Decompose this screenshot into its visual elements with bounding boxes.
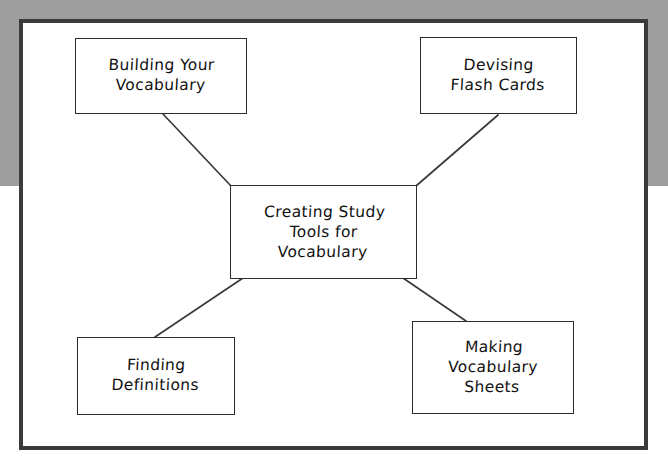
node-devising-flash-cards-label: DevisingFlash Cards bbox=[450, 56, 546, 95]
node-building-vocabulary-label: Building YourVocabulary bbox=[107, 56, 215, 95]
node-building-vocabulary[interactable]: Building YourVocabulary bbox=[75, 38, 247, 114]
node-making-vocabulary-sheets-label: MakingVocabularySheets bbox=[446, 337, 539, 397]
node-finding-definitions-label: FindingDefinitions bbox=[111, 356, 201, 395]
node-creating-study-tools-for-vocabulary[interactable]: Creating StudyTools forVocabulary bbox=[230, 185, 417, 279]
node-making-vocabulary-sheets[interactable]: MakingVocabularySheets bbox=[412, 321, 574, 414]
concept-map-canvas: Building YourVocabulary DevisingFlash Ca… bbox=[0, 0, 668, 473]
node-finding-definitions[interactable]: FindingDefinitions bbox=[77, 337, 235, 415]
node-devising-flash-cards[interactable]: DevisingFlash Cards bbox=[420, 37, 577, 114]
node-creating-study-tools-label: Creating StudyTools forVocabulary bbox=[261, 202, 385, 262]
